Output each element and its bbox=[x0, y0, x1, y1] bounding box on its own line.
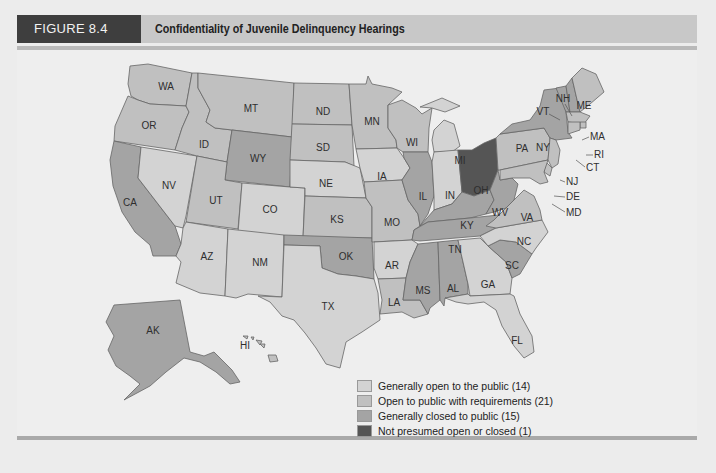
label-wy: WY bbox=[250, 153, 266, 164]
legend-swatch-closed bbox=[357, 410, 372, 422]
legend-label-closed: Generally closed to public (15) bbox=[378, 410, 520, 422]
label-nm: NM bbox=[252, 257, 268, 268]
label-de: DE bbox=[566, 191, 580, 202]
legend-label-not-presumed: Not presumed open or closed (1) bbox=[378, 425, 532, 437]
state-hi-1 bbox=[268, 355, 278, 362]
label-pa: PA bbox=[516, 143, 529, 154]
label-ar: AR bbox=[385, 260, 399, 271]
label-nd: ND bbox=[316, 106, 330, 117]
legend-swatch-not-presumed bbox=[357, 425, 372, 437]
label-ia: IA bbox=[377, 171, 387, 182]
label-il: IL bbox=[419, 191, 428, 202]
label-tn: TN bbox=[448, 244, 461, 255]
label-fl: FL bbox=[511, 335, 523, 346]
label-nc: NC bbox=[517, 236, 531, 247]
label-ga: GA bbox=[481, 279, 496, 290]
label-mo: MO bbox=[384, 217, 400, 228]
label-md: MD bbox=[566, 207, 582, 218]
label-oh: OH bbox=[474, 185, 489, 196]
label-al: AL bbox=[447, 283, 460, 294]
label-ok: OK bbox=[339, 251, 354, 262]
label-ny: NY bbox=[536, 142, 550, 153]
label-sd: SD bbox=[316, 142, 330, 153]
state-ak bbox=[106, 300, 240, 400]
legend-item-open-requirements: Open to public with requirements (21) bbox=[357, 393, 553, 408]
label-or: OR bbox=[142, 120, 157, 131]
label-ct: CT bbox=[586, 162, 599, 173]
label-co: CO bbox=[263, 204, 278, 215]
label-mn: MN bbox=[364, 116, 380, 127]
label-in: IN bbox=[445, 190, 455, 201]
legend-swatch-open bbox=[357, 380, 372, 392]
leader-ct bbox=[576, 160, 585, 167]
label-vt: VT bbox=[537, 106, 550, 117]
leader-ma bbox=[582, 137, 589, 140]
leader-nj bbox=[560, 180, 565, 182]
label-sc: SC bbox=[505, 260, 519, 271]
map-legend: Generally open to the public (14) Open t… bbox=[357, 378, 553, 438]
label-ne: NE bbox=[319, 178, 333, 189]
legend-label-open-requirements: Open to public with requirements (21) bbox=[378, 395, 553, 407]
legend-item-open: Generally open to the public (14) bbox=[357, 378, 553, 393]
state-nd bbox=[292, 83, 352, 125]
label-mi: MI bbox=[454, 155, 465, 166]
label-ky: KY bbox=[460, 220, 474, 231]
label-mt: MT bbox=[244, 103, 258, 114]
label-nv: NV bbox=[162, 180, 176, 191]
label-ma: MA bbox=[590, 131, 605, 142]
label-ri: RI bbox=[594, 149, 604, 160]
label-hi: HI bbox=[240, 340, 250, 351]
label-ks: KS bbox=[330, 214, 344, 225]
label-ca: CA bbox=[123, 197, 137, 208]
label-id: ID bbox=[199, 139, 209, 150]
legend-swatch-open-requirements bbox=[357, 395, 372, 407]
label-wv: WV bbox=[492, 207, 508, 218]
label-nj: NJ bbox=[566, 176, 578, 187]
legend-item-closed: Generally closed to public (15) bbox=[357, 408, 553, 423]
label-va: VA bbox=[521, 212, 534, 223]
state-ri bbox=[580, 122, 586, 128]
state-ct bbox=[568, 122, 580, 134]
leader-md bbox=[552, 204, 565, 212]
leader-de bbox=[554, 196, 565, 197]
label-ut: UT bbox=[209, 195, 222, 206]
label-me: ME bbox=[577, 100, 592, 111]
label-wi: WI bbox=[406, 137, 418, 148]
label-ms: MS bbox=[416, 285, 431, 296]
state-fl bbox=[445, 294, 534, 358]
label-ak: AK bbox=[146, 325, 160, 336]
label-nh: NH bbox=[556, 93, 570, 104]
label-la: LA bbox=[388, 297, 401, 308]
label-tx: TX bbox=[322, 301, 335, 312]
legend-label-open: Generally open to the public (14) bbox=[378, 380, 530, 392]
label-wa: WA bbox=[158, 81, 174, 92]
label-az: AZ bbox=[201, 251, 214, 262]
legend-item-not-presumed: Not presumed open or closed (1) bbox=[357, 423, 553, 438]
